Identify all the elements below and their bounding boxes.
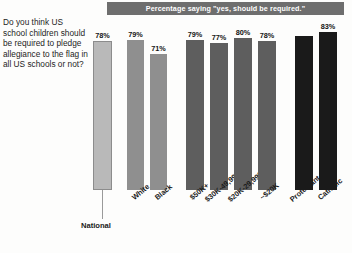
bar-black: 71%: [150, 54, 167, 190]
leader-line-national: [102, 190, 103, 219]
bar-rect-income-under-20k: [258, 41, 276, 190]
bar-income-50k-plus: 79%: [186, 40, 204, 190]
bar-income-20k-29k: 80%: [234, 38, 252, 190]
bar-rect-income-50k-plus: [186, 40, 204, 190]
bar-national: 78%: [93, 41, 112, 190]
bar-value-black: 71%: [151, 44, 166, 53]
bar-value-national: 78%: [95, 31, 110, 40]
bar-protestant: [295, 36, 313, 190]
bar-chart-plot: 78% National 79% White 71% Black 79% $50…: [0, 0, 352, 253]
bar-value-catholic: 83%: [321, 22, 336, 31]
bar-value-income-under-20k: 78%: [260, 31, 275, 40]
bar-white: 79%: [127, 40, 144, 190]
bar-rect-income-20k-29k: [234, 38, 252, 190]
cat-label-national: National: [81, 221, 111, 230]
bar-rect-black: [150, 54, 167, 190]
bar-rect-catholic: [319, 32, 337, 190]
bar-rect-national: [93, 41, 112, 190]
bar-catholic: 83%: [319, 32, 337, 190]
chart-page: Percentage saying "yes, should be requir…: [0, 0, 352, 253]
bar-rect-white: [127, 40, 144, 190]
bar-value-income-30k-49k: 77%: [212, 33, 227, 42]
bar-value-income-50k-plus: 79%: [188, 30, 203, 39]
bar-income-30k-49k: 77%: [210, 43, 228, 190]
bar-value-white: 79%: [128, 30, 143, 39]
bar-rect-protestant: [295, 36, 313, 190]
bar-income-under-20k: 78%: [258, 41, 276, 190]
bar-rect-income-30k-49k: [210, 43, 228, 190]
bar-value-income-20k-29k: 80%: [236, 28, 251, 37]
